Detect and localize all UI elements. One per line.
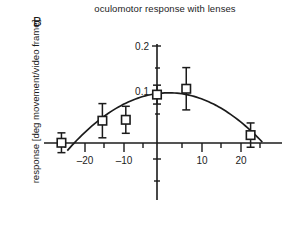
- marker-open-square: [182, 85, 191, 94]
- marker-open-square: [246, 131, 255, 140]
- y-axis-tick-labels: 0.1 0.2: [135, 41, 149, 97]
- marker-open-square: [153, 90, 162, 99]
- plot-area: –20 –10 10 20 0.1 0.2: [0, 0, 284, 226]
- data-point: [98, 104, 107, 138]
- x-tick-label--10: –10: [116, 155, 133, 166]
- marker-open-square: [98, 116, 107, 125]
- data-point: [122, 106, 131, 133]
- x-axis-ticks: [65, 143, 260, 152]
- data-point: [57, 133, 65, 153]
- figure-panel: oculomotor response with lenses B respon…: [0, 0, 284, 226]
- fit-curve-parabola: [67, 93, 262, 151]
- data-point: [153, 85, 162, 104]
- marker-open-square: [57, 139, 65, 148]
- x-tick-label--20: –20: [77, 155, 94, 166]
- data-point: [182, 68, 191, 110]
- x-tick-label-10: 10: [196, 155, 208, 166]
- marker-open-square: [122, 116, 131, 125]
- x-tick-label-20: 20: [235, 155, 247, 166]
- y-tick-label-0.2: 0.2: [135, 41, 149, 52]
- x-axis-tick-labels: –20 –10 10 20: [77, 155, 247, 166]
- axes: [44, 44, 282, 200]
